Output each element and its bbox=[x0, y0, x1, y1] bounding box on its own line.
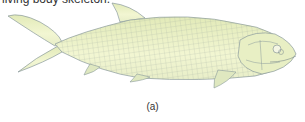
fish-illustration bbox=[0, 0, 305, 100]
tail-fin-lower bbox=[18, 46, 62, 72]
fish-head bbox=[238, 33, 296, 74]
pectoral-fin bbox=[214, 70, 236, 88]
tail-fin-upper bbox=[8, 15, 62, 46]
figure-caption: (a) bbox=[0, 101, 305, 112]
fish-eye bbox=[273, 45, 281, 53]
